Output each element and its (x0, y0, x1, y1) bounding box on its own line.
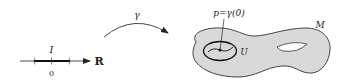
neighborhood-label: U (240, 47, 248, 57)
gamma-label: γ (134, 10, 140, 20)
diagram-canvas: R I 0 γ p=γ(0) U M (0, 0, 344, 83)
gamma-map: γ (104, 10, 168, 37)
manifold: p=γ(0) U M (193, 8, 330, 77)
origin-label: 0 (49, 69, 54, 78)
gamma-arrow (104, 23, 168, 37)
manifold-label: M (314, 20, 325, 30)
manifold-surface (193, 28, 330, 77)
real-line: R I 0 (20, 44, 104, 78)
real-line-label: R (94, 55, 104, 68)
point-label: p=γ(0) (213, 8, 245, 18)
interval-label: I (49, 44, 55, 55)
